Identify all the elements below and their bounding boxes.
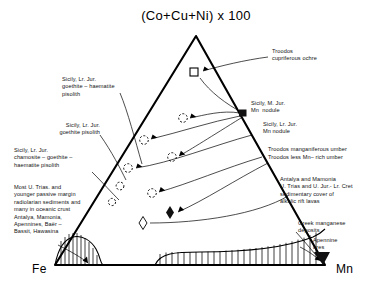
data-marker-filled-square [239, 110, 247, 117]
label-antalya-mamonia-rift-cover: Antalya and Mamonia U. Trias and U. Jur.… [280, 176, 353, 206]
data-marker [108, 198, 115, 205]
data-marker [148, 189, 157, 198]
label-passive-margin-sediments: Most U. Trias. and younger passive margi… [14, 184, 81, 236]
leader-line [92, 172, 119, 200]
label-sicily-lr-jur-mn-nodule: Sicily, Lr. Jur. Mn nodule [263, 121, 297, 136]
corner-label-mn: Mn [336, 262, 353, 276]
corner-label-fe: Fe [32, 262, 47, 276]
data-marker-filled-diamond [166, 206, 174, 219]
data-marker-open-diamond [139, 217, 147, 230]
data-marker-square [190, 68, 198, 76]
label-sicily-m-jur-mn-nodule: Sicily, M. Jur. Mn nodule [251, 100, 285, 115]
leader-line [179, 118, 241, 156]
label-troodos-cupriferous-ochre: Troodos cupriferous ochre [272, 48, 317, 63]
leader-line [151, 116, 240, 139]
ternary-diagram: (Co+Cu+Ni) x 100 [0, 0, 392, 302]
data-marker [140, 136, 149, 145]
data-marker [124, 164, 133, 173]
data-marker [179, 114, 188, 123]
label-sicily-chamosite-goethite-haematite-pisolith: Sicily, Lr. Jur. chamosite – goethite – … [14, 147, 72, 169]
data-marker [116, 182, 124, 190]
distribution-curve-fe [55, 233, 103, 265]
data-marker [168, 153, 177, 162]
leader-line [190, 112, 240, 118]
label-sicily-goethite-haematite-pisolith: Sicily, Lr. Jur. goethite – haematite pi… [62, 76, 115, 98]
leader-line [136, 135, 252, 168]
label-apennine-ores: Apennine ores [313, 237, 337, 252]
label-greek-manganese-deposits: Greek manganese deposits [298, 220, 346, 235]
label-sicily-goethite-pisolith: Sicily, Lr. Jur. goethite pisolith [16, 122, 100, 137]
label-troodos-manganiferous-umber: Troodos manganiferous umber [268, 146, 347, 153]
label-troodos-less-mn-rich-umber: Troodos less Mn– rich umber [268, 154, 343, 161]
